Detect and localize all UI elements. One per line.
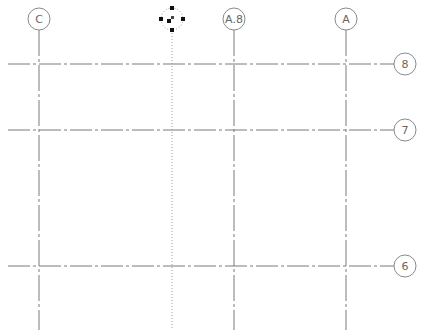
grid-label-A: A: [342, 13, 350, 26]
grid-label-A.8: A.8: [225, 13, 243, 26]
grid-label-8: 8: [402, 58, 409, 71]
grid-label-C: C: [35, 13, 43, 26]
grip-handle[interactable]: [167, 19, 171, 23]
vertical-grid-bubbles: CA.8A: [28, 8, 357, 30]
grid-label-7: 7: [402, 124, 409, 137]
grip-handle[interactable]: [171, 16, 174, 19]
grid-label-6: 6: [402, 260, 409, 273]
grip-handle[interactable]: [170, 6, 174, 10]
selection-grips[interactable]: [159, 6, 185, 32]
horizontal-grid-lines: [8, 64, 394, 266]
grip-handle[interactable]: [181, 17, 185, 21]
horizontal-grid-bubbles: 876: [394, 53, 416, 277]
drawing-canvas[interactable]: 876 CA.8A: [0, 0, 425, 335]
grip-handle[interactable]: [159, 17, 163, 21]
vertical-grid-lines: [39, 30, 346, 330]
grip-handle[interactable]: [170, 28, 174, 32]
